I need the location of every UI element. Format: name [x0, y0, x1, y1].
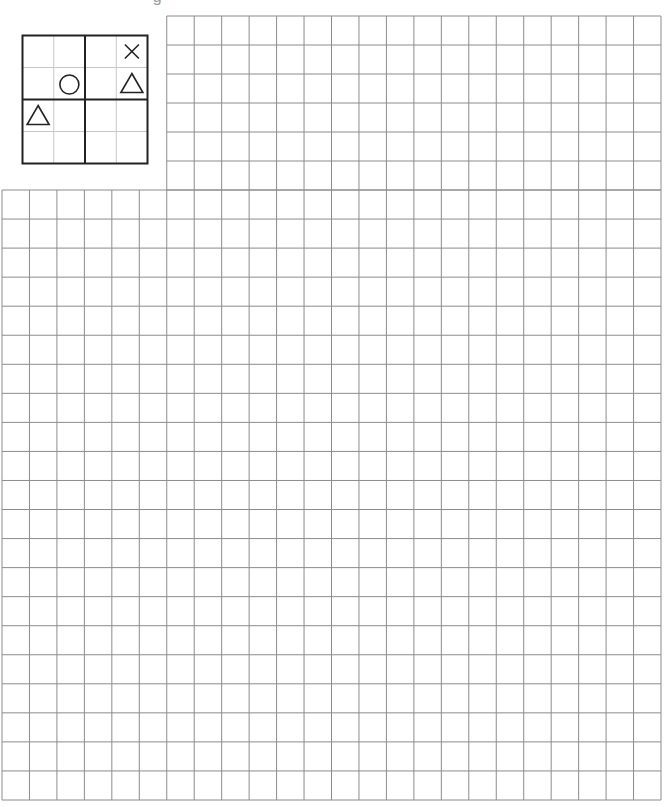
answer-cell[interactable]: [139, 393, 166, 422]
answer-cell[interactable]: [277, 655, 304, 684]
answer-cell[interactable]: [167, 364, 194, 393]
answer-cell[interactable]: [634, 45, 661, 74]
answer-cell[interactable]: [304, 568, 331, 597]
answer-cell[interactable]: [84, 190, 111, 219]
answer-cell[interactable]: [579, 103, 606, 132]
answer-cell[interactable]: [496, 568, 523, 597]
answer-cell[interactable]: [579, 248, 606, 277]
answer-cell[interactable]: [139, 510, 166, 539]
answer-cell[interactable]: [332, 713, 359, 742]
answer-cell[interactable]: [112, 655, 139, 684]
answer-cell[interactable]: [441, 451, 468, 480]
answer-cell[interactable]: [524, 306, 551, 335]
answer-cell[interactable]: [386, 103, 413, 132]
answer-cell[interactable]: [84, 335, 111, 364]
answer-cell[interactable]: [359, 626, 386, 655]
answer-cell[interactable]: [469, 103, 496, 132]
answer-cell[interactable]: [222, 393, 249, 422]
answer-cell[interactable]: [304, 742, 331, 771]
answer-cell[interactable]: [386, 626, 413, 655]
answer-cell[interactable]: [606, 597, 633, 626]
answer-cell[interactable]: [579, 480, 606, 509]
answer-cell[interactable]: [634, 219, 661, 248]
answer-cell[interactable]: [579, 684, 606, 713]
answer-cell[interactable]: [112, 597, 139, 626]
answer-cell[interactable]: [386, 451, 413, 480]
answer-cell[interactable]: [386, 45, 413, 74]
answer-cell[interactable]: [249, 306, 276, 335]
answer-cell[interactable]: [469, 480, 496, 509]
answer-cell[interactable]: [167, 510, 194, 539]
answer-cell[interactable]: [469, 132, 496, 161]
answer-cell[interactable]: [194, 597, 221, 626]
answer-cell[interactable]: [139, 713, 166, 742]
answer-cell[interactable]: [249, 568, 276, 597]
answer-cell[interactable]: [2, 451, 29, 480]
answer-cell[interactable]: [304, 510, 331, 539]
answer-cell[interactable]: [469, 771, 496, 800]
answer-cell[interactable]: [359, 190, 386, 219]
answer-cell[interactable]: [194, 277, 221, 306]
answer-cell[interactable]: [496, 335, 523, 364]
answer-cell[interactable]: [167, 422, 194, 451]
answer-cell[interactable]: [29, 364, 56, 393]
answer-cell[interactable]: [359, 103, 386, 132]
answer-cell[interactable]: [167, 684, 194, 713]
answer-cell[interactable]: [332, 335, 359, 364]
answer-cell[interactable]: [2, 771, 29, 800]
answer-cell[interactable]: [332, 248, 359, 277]
answer-cell[interactable]: [304, 16, 331, 45]
answer-cell[interactable]: [579, 510, 606, 539]
answer-cell[interactable]: [304, 45, 331, 74]
answer-cell[interactable]: [167, 742, 194, 771]
answer-cell[interactable]: [414, 684, 441, 713]
answer-cell[interactable]: [139, 277, 166, 306]
answer-cell[interactable]: [2, 597, 29, 626]
answer-cell[interactable]: [2, 277, 29, 306]
answer-cell[interactable]: [277, 277, 304, 306]
answer-cell[interactable]: [496, 190, 523, 219]
answer-cell[interactable]: [139, 626, 166, 655]
answer-cell[interactable]: [29, 626, 56, 655]
answer-cell[interactable]: [29, 539, 56, 568]
answer-cell[interactable]: [304, 771, 331, 800]
answer-cell[interactable]: [359, 451, 386, 480]
answer-cell[interactable]: [496, 771, 523, 800]
answer-cell[interactable]: [579, 626, 606, 655]
answer-cell[interactable]: [386, 568, 413, 597]
answer-cell[interactable]: [249, 132, 276, 161]
answer-cell[interactable]: [606, 335, 633, 364]
answer-cell[interactable]: [277, 103, 304, 132]
answer-cell[interactable]: [332, 16, 359, 45]
answer-cell[interactable]: [386, 16, 413, 45]
answer-cell[interactable]: [84, 248, 111, 277]
answer-cell[interactable]: [249, 771, 276, 800]
answer-cell[interactable]: [359, 335, 386, 364]
answer-cell[interactable]: [386, 539, 413, 568]
answer-cell[interactable]: [2, 655, 29, 684]
answer-cell[interactable]: [84, 684, 111, 713]
answer-cell[interactable]: [249, 713, 276, 742]
answer-cell[interactable]: [606, 713, 633, 742]
answer-cell[interactable]: [304, 393, 331, 422]
answer-cell[interactable]: [304, 248, 331, 277]
answer-cell[interactable]: [167, 539, 194, 568]
answer-cell[interactable]: [29, 510, 56, 539]
answer-cell[interactable]: [57, 277, 84, 306]
answer-cell[interactable]: [359, 277, 386, 306]
answer-cell[interactable]: [414, 277, 441, 306]
answer-cell[interactable]: [386, 655, 413, 684]
answer-cell[interactable]: [551, 510, 578, 539]
answer-cell[interactable]: [579, 277, 606, 306]
answer-cell[interactable]: [332, 306, 359, 335]
answer-cell[interactable]: [277, 451, 304, 480]
answer-cell[interactable]: [441, 219, 468, 248]
answer-cell[interactable]: [112, 713, 139, 742]
answer-cell[interactable]: [524, 510, 551, 539]
answer-cell[interactable]: [29, 422, 56, 451]
answer-cell[interactable]: [139, 335, 166, 364]
answer-cell[interactable]: [359, 568, 386, 597]
answer-cell[interactable]: [606, 771, 633, 800]
answer-cell[interactable]: [277, 713, 304, 742]
answer-cell[interactable]: [634, 190, 661, 219]
